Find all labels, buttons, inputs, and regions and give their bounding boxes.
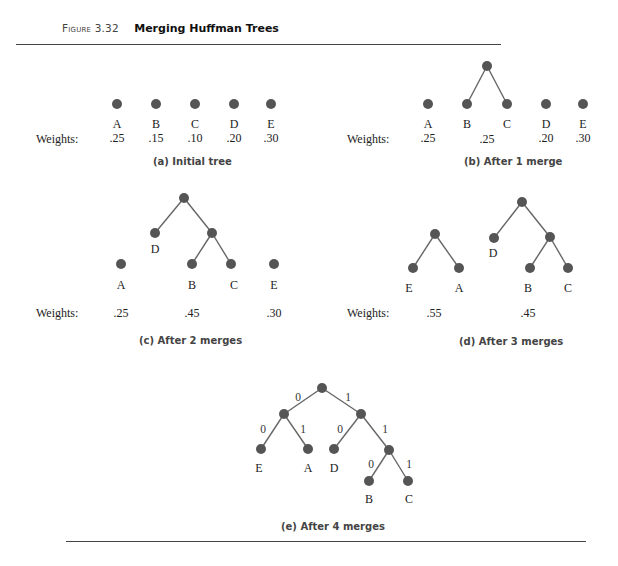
leaf-node-b bbox=[151, 99, 161, 109]
edge bbox=[435, 234, 459, 268]
internal-node bbox=[482, 61, 492, 71]
leaf-label: C bbox=[503, 117, 511, 131]
edge-bit: 1 bbox=[382, 423, 388, 435]
leaf-label: B bbox=[524, 281, 532, 295]
leaf-label: D bbox=[542, 117, 551, 131]
leaf-label: C bbox=[191, 117, 199, 131]
leaf-node-b bbox=[462, 99, 472, 109]
leaf-node-c bbox=[563, 263, 573, 273]
caption-d: (d) After 3 merges bbox=[459, 336, 563, 347]
edge-bit: 0 bbox=[368, 458, 374, 470]
weight-value: .25 bbox=[114, 306, 129, 320]
weight-value: .20 bbox=[539, 131, 554, 145]
weight-value: .25 bbox=[421, 131, 436, 145]
weights-label: Weights: bbox=[347, 132, 389, 146]
edge-bit: 1 bbox=[406, 458, 412, 470]
leaf-node-c bbox=[226, 259, 236, 269]
leaf-label: A bbox=[117, 278, 126, 292]
edge bbox=[413, 234, 435, 268]
leaf-node-c bbox=[190, 99, 200, 109]
panel-e: 0 1 0 1 0 1 0 1 E A D B C (e) After 4 me… bbox=[255, 383, 413, 532]
edge bbox=[467, 66, 487, 104]
huffman-diagram: A B C D E Weights: .25 .15 .10 .20 .30 (… bbox=[0, 0, 618, 566]
edge bbox=[192, 233, 212, 264]
weight-value: .30 bbox=[576, 131, 591, 145]
panel-c: A D B C E Weights: .25 .45 .30 (c) After… bbox=[36, 193, 282, 346]
weight-value: .30 bbox=[264, 131, 279, 145]
leaf-label: B bbox=[188, 278, 196, 292]
internal-node bbox=[207, 228, 217, 238]
internal-node bbox=[430, 229, 440, 239]
leaf-label: E bbox=[267, 117, 274, 131]
caption-c: (c) After 2 merges bbox=[139, 335, 242, 346]
leaf-node-d bbox=[489, 233, 499, 243]
leaf-node-a bbox=[116, 259, 126, 269]
leaf-label: A bbox=[304, 461, 313, 475]
edge-1 bbox=[322, 388, 361, 414]
leaf-label: B bbox=[365, 492, 373, 506]
edge-bit: 1 bbox=[345, 391, 351, 403]
leaf-label: D bbox=[489, 246, 498, 260]
root-node bbox=[317, 383, 327, 393]
edge bbox=[155, 198, 184, 233]
leaf-node-b bbox=[187, 259, 197, 269]
leaf-label: C bbox=[405, 492, 413, 506]
weight-value: .25 bbox=[110, 131, 125, 145]
leaf-node-e bbox=[578, 99, 588, 109]
leaf-label: D bbox=[151, 242, 160, 256]
edge-bit: 1 bbox=[300, 423, 306, 435]
internal-node bbox=[279, 409, 289, 419]
leaf-node-a bbox=[454, 263, 464, 273]
edge-0 bbox=[284, 388, 322, 414]
leaf-label: B bbox=[463, 117, 471, 131]
weight-value: .15 bbox=[149, 131, 164, 145]
caption-b: (b) After 1 merge bbox=[464, 156, 563, 167]
leaf-node-e bbox=[266, 99, 276, 109]
edge bbox=[184, 198, 212, 233]
leaf-node-d bbox=[229, 99, 239, 109]
edge bbox=[487, 66, 507, 104]
edge-bit: 0 bbox=[337, 423, 343, 435]
weights-label: Weights: bbox=[36, 132, 78, 146]
edge-bit: 0 bbox=[295, 391, 301, 403]
leaf-node-e bbox=[269, 259, 279, 269]
internal-node bbox=[179, 193, 189, 203]
panel-d: E A D B C Weights: .55 .45 (d) After 3 m… bbox=[347, 197, 573, 347]
weight-value: .10 bbox=[188, 131, 203, 145]
weights-label: Weights: bbox=[36, 306, 78, 320]
weight-value: .55 bbox=[427, 306, 442, 320]
bottom-rule bbox=[66, 541, 586, 542]
leaf-label: D bbox=[330, 461, 339, 475]
caption-e: (e) After 4 merges bbox=[281, 521, 385, 532]
leaf-label: A bbox=[455, 281, 464, 295]
leaf-label: B bbox=[152, 117, 160, 131]
leaf-label: E bbox=[270, 278, 277, 292]
weight-value: .20 bbox=[227, 131, 242, 145]
weight-value: .45 bbox=[521, 306, 536, 320]
edge-bit: 0 bbox=[260, 423, 266, 435]
weight-value: .30 bbox=[267, 306, 282, 320]
leaf-node-b bbox=[525, 263, 535, 273]
panel-a: A B C D E Weights: .25 .15 .10 .20 .30 (… bbox=[36, 99, 279, 167]
leaf-node-d bbox=[329, 444, 339, 454]
leaf-label: D bbox=[230, 117, 239, 131]
leaf-node-e bbox=[408, 263, 418, 273]
leaf-node-d bbox=[541, 99, 551, 109]
leaf-label: A bbox=[424, 117, 433, 131]
edge bbox=[494, 202, 522, 238]
leaf-node-c bbox=[502, 99, 512, 109]
weight-value: .45 bbox=[185, 306, 200, 320]
weights-label: Weights: bbox=[347, 306, 389, 320]
panel-b: A B C D E Weights: .25 .25 .20 .30 (b) A… bbox=[347, 61, 591, 167]
leaf-node-c bbox=[403, 476, 413, 486]
caption-a: (a) Initial tree bbox=[153, 156, 232, 167]
leaf-node-a bbox=[423, 99, 433, 109]
leaf-node-b bbox=[364, 476, 374, 486]
internal-node bbox=[545, 232, 555, 242]
edge bbox=[212, 233, 231, 264]
leaf-node-a bbox=[112, 99, 122, 109]
leaf-label: C bbox=[564, 281, 572, 295]
internal-node bbox=[356, 409, 366, 419]
leaf-label: A bbox=[113, 117, 122, 131]
leaf-node-d bbox=[150, 228, 160, 238]
